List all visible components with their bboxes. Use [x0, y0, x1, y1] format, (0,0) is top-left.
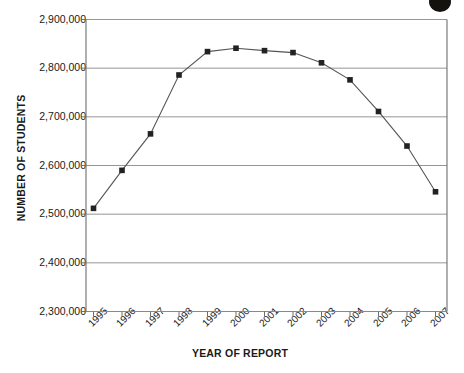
data-point: [290, 50, 296, 56]
line-chart: NUMBER OF STUDENTS YEAR OF REPORT 2,300,…: [0, 0, 464, 373]
data-markers: [91, 45, 439, 211]
data-point: [433, 189, 439, 195]
plot-area: [0, 0, 464, 373]
data-line: [94, 48, 436, 208]
y-axis-ticks: [82, 20, 86, 312]
data-point: [404, 143, 410, 149]
gridlines: [86, 20, 447, 312]
data-point: [319, 60, 325, 66]
data-point: [176, 72, 182, 78]
data-point: [376, 109, 382, 115]
data-point: [205, 49, 211, 55]
data-point: [262, 48, 268, 54]
data-point: [148, 131, 154, 137]
x-axis-ticks: [94, 312, 436, 317]
data-point: [119, 168, 125, 174]
data-point: [91, 206, 97, 212]
data-point: [233, 45, 239, 51]
data-point: [347, 77, 353, 83]
